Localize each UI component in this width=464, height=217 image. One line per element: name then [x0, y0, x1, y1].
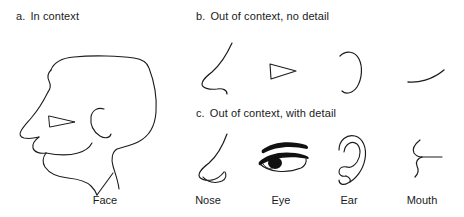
panel-marker-c: c. [196, 107, 205, 119]
column-label-ear: Ear [316, 194, 382, 206]
panel-label-a: a.In context [16, 10, 79, 22]
column-label-eye: Eye [248, 194, 314, 206]
nose-drawing-with-detail [192, 132, 248, 186]
panel-label-b: b.Out of context, no detail [196, 10, 329, 22]
panel-title-c: Out of context, with detail [210, 107, 336, 119]
ear-outline-no-detail [334, 48, 370, 98]
column-label-nose: Nose [175, 194, 241, 206]
ear-drawing-with-detail [330, 132, 374, 188]
face-profile-drawing [18, 28, 168, 190]
column-label-face: Face [72, 194, 138, 206]
panel-marker-b: b. [196, 10, 205, 22]
figure-canvas: a.In context b.Out of context, no detail… [0, 0, 464, 217]
eye-outline-no-detail [266, 60, 302, 84]
eye-drawing-with-detail [256, 140, 316, 176]
nose-outline-no-detail [196, 40, 252, 96]
panel-title-a: In context [30, 10, 79, 22]
mouth-outline-no-detail [406, 68, 450, 88]
column-label-mouth: Mouth [389, 194, 455, 206]
mouth-drawing-with-detail [406, 136, 446, 182]
panel-title-b: Out of context, no detail [210, 10, 329, 22]
panel-label-c: c.Out of context, with detail [196, 107, 336, 119]
panel-marker-a: a. [16, 10, 25, 22]
